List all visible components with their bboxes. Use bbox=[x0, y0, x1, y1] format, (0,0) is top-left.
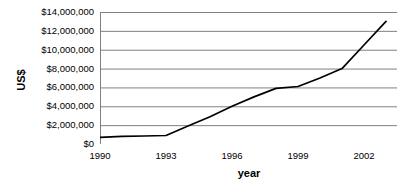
data-series-line bbox=[100, 21, 386, 137]
x-axis-tick-labels: 19901993199619992002 bbox=[0, 150, 413, 164]
y-axis-tick-label: $14,000,000 bbox=[24, 7, 94, 17]
y-axis-tick-label: $12,000,000 bbox=[24, 26, 94, 36]
y-axis-tick-labels: $0$2,000,000$4,000,000$6,000,000$8,000,0… bbox=[24, 0, 94, 193]
y-axis-tick-label: $4,000,000 bbox=[24, 101, 94, 111]
x-axis-title: year bbox=[0, 167, 413, 179]
y-axis-tick-label: $10,000,000 bbox=[24, 45, 94, 55]
axis-lines bbox=[100, 12, 101, 144]
plot-area bbox=[100, 12, 397, 144]
gridlines bbox=[100, 13, 397, 145]
x-axis-tick-label: 1990 bbox=[77, 150, 123, 162]
y-axis-tick-label: $8,000,000 bbox=[24, 64, 94, 74]
x-axis-tick-label: 1996 bbox=[209, 150, 255, 162]
y-axis-tick-label: $6,000,000 bbox=[24, 82, 94, 92]
x-axis-tick-label: 1999 bbox=[275, 150, 321, 162]
x-axis-tick-label: 1993 bbox=[143, 150, 189, 162]
y-axis-tick-label: $2,000,000 bbox=[24, 120, 94, 130]
x-axis-tick-label: 2002 bbox=[341, 150, 387, 162]
line-chart: US$ $0$2,000,000$4,000,000$6,000,000$8,0… bbox=[0, 0, 413, 193]
plot-svg bbox=[100, 12, 397, 144]
y-axis-tick-label: $0 bbox=[24, 139, 94, 149]
